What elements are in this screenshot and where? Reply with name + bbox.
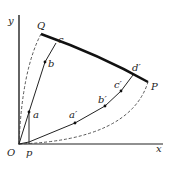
- origin-label: O: [7, 147, 15, 158]
- label-a: a: [33, 109, 39, 120]
- dashed-curve-oq: [19, 34, 41, 144]
- point-aprime: [74, 122, 77, 125]
- label-b: b: [48, 58, 54, 69]
- point-bprime: [104, 105, 107, 108]
- label-c: c: [58, 34, 64, 45]
- label-bprime: b′: [98, 94, 107, 105]
- label-aprime: a′: [69, 109, 78, 120]
- label-p-small: p: [26, 147, 33, 158]
- point-cprime: [120, 90, 123, 93]
- label-P: P: [150, 81, 158, 92]
- point-a: [28, 111, 31, 114]
- x-axis-label: x: [156, 143, 162, 154]
- label-Q: Q: [37, 20, 45, 31]
- point-b: [44, 61, 47, 64]
- y-axis-label: y: [7, 15, 14, 26]
- diagram: y x O p Q P a b c a′ b′ c′ d′: [0, 0, 173, 174]
- label-cprime: c′: [114, 79, 123, 90]
- label-dprime: d′: [132, 62, 141, 73]
